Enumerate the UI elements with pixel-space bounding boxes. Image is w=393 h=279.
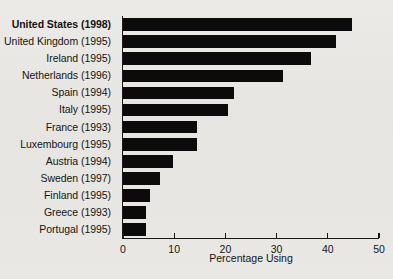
bar-chart-figure: United States (1998) United Kingdom (199…: [0, 0, 393, 279]
x-axis-tick: [327, 233, 328, 238]
bar: [123, 155, 173, 168]
bar-slot: [123, 101, 379, 118]
bar: [123, 223, 146, 236]
category-label: United States (1998): [0, 16, 117, 33]
bar-slot: [123, 16, 379, 33]
bar-slot: [123, 204, 379, 221]
category-label: United Kingdom (1995): [0, 33, 117, 50]
bar-slot: [123, 136, 379, 153]
category-label: France (1993): [0, 119, 117, 136]
bar-slot: [123, 221, 379, 238]
category-label: Finland (1995): [0, 187, 117, 204]
bar: [123, 189, 150, 202]
x-axis-tick: [122, 233, 123, 238]
category-label: Sweden (1997): [0, 170, 117, 187]
bar: [123, 87, 234, 100]
x-axis-tick: [225, 233, 226, 238]
category-label: Spain (1994): [0, 84, 117, 101]
bar: [123, 18, 352, 31]
x-axis-title: Percentage Using: [123, 252, 379, 264]
category-label: Greece (1993): [0, 204, 117, 221]
bar: [123, 70, 283, 83]
category-label: Austria (1994): [0, 153, 117, 170]
plot-area: 01020304050: [123, 16, 379, 238]
bar: [123, 138, 197, 151]
category-label: Italy (1995): [0, 101, 117, 118]
bar-slot: [123, 187, 379, 204]
bar-slot: [123, 170, 379, 187]
bar-slot: [123, 119, 379, 136]
bar: [123, 206, 146, 219]
bar-slot: [123, 153, 379, 170]
category-label: Ireland (1995): [0, 50, 117, 67]
x-axis-tick: [276, 233, 277, 238]
x-axis-tick: [174, 233, 175, 238]
category-label: Luxembourg (1995): [0, 136, 117, 153]
bar-series: [123, 16, 379, 238]
bar: [123, 52, 311, 65]
bar: [123, 121, 197, 134]
x-axis-tick: [378, 233, 379, 238]
bar-slot: [123, 50, 379, 67]
bar-slot: [123, 67, 379, 84]
category-label: Portugal (1995): [0, 221, 117, 238]
bar: [123, 172, 160, 185]
bar-slot: [123, 84, 379, 101]
category-label: Netherlands (1996): [0, 67, 117, 84]
bar: [123, 35, 336, 48]
category-label-column: United States (1998) United Kingdom (199…: [0, 16, 117, 238]
bar: [123, 104, 228, 117]
bar-slot: [123, 33, 379, 50]
